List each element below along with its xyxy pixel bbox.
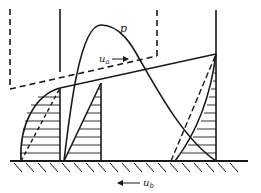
upper-velocity-subscript: a	[105, 58, 109, 66]
pad-inclined-surface	[60, 54, 216, 88]
lower-velocity-annotation: ub	[118, 177, 154, 190]
outlet-velocity-profile	[171, 54, 216, 161]
upper-velocity-annotation: ua	[99, 53, 128, 66]
pressure-curve	[64, 25, 216, 161]
bearing-diagram: p ua ub	[0, 0, 261, 193]
svg-text:ua: ua	[99, 53, 110, 66]
lower-velocity-subscript: b	[149, 182, 154, 190]
pressure-label: p	[120, 22, 127, 35]
inlet-velocity-profile	[21, 88, 60, 161]
runner-surface	[10, 161, 248, 172]
svg-text:ub: ub	[143, 177, 154, 190]
